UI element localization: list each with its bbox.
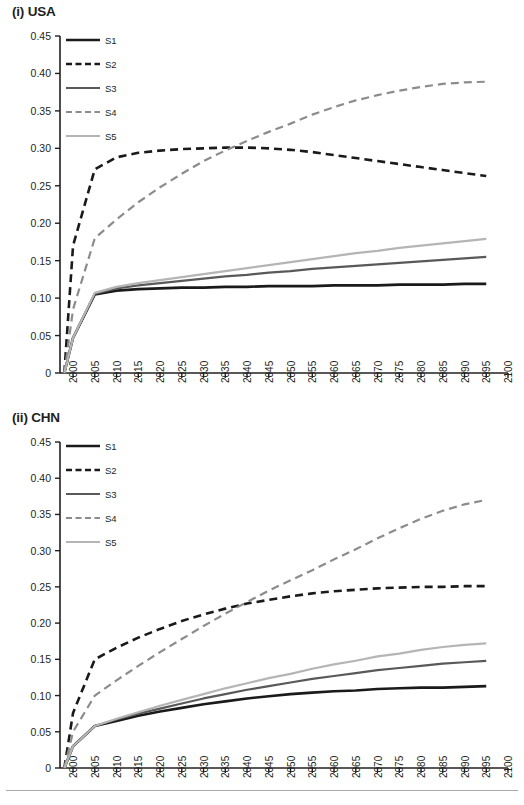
y-tick-label: 0.15 xyxy=(31,255,52,267)
y-tick-label: 0.35 xyxy=(31,508,52,520)
y-tick-label: 0.40 xyxy=(31,472,52,484)
chart-panel-chn: (ii) CHN 00.050.100.150.200.250.300.350.… xyxy=(0,408,524,805)
x-tick-label: 2065 xyxy=(351,755,362,778)
x-tick-label: 2065 xyxy=(351,360,362,383)
y-tick-label: 0.15 xyxy=(31,653,52,665)
y-tick-label: 0 xyxy=(45,367,51,379)
legend-label-s3: S3 xyxy=(105,83,117,94)
legend-label-s2: S2 xyxy=(105,465,117,476)
x-tick-label: 2070 xyxy=(373,360,384,383)
y-tick-label: 0.05 xyxy=(31,726,52,738)
x-tick-label: 2045 xyxy=(264,360,275,383)
chart-panel-usa: (i) USA 00.050.100.150.200.250.300.350.4… xyxy=(0,0,524,410)
x-tick-label: 2095 xyxy=(481,755,492,778)
legend-label-s4: S4 xyxy=(105,107,117,118)
x-tick-label: 2000 xyxy=(68,360,79,383)
x-tick-label: 2005 xyxy=(90,360,101,383)
x-tick-label: 2100 xyxy=(503,755,514,778)
y-tick-label: 0.10 xyxy=(31,292,52,304)
footer-divider xyxy=(6,790,518,791)
x-tick-label: 2025 xyxy=(177,755,188,778)
y-tick-label: 0.25 xyxy=(31,180,52,192)
legend-label-s2: S2 xyxy=(105,59,117,70)
y-tick-label: 0.35 xyxy=(31,105,52,117)
x-tick-label: 2035 xyxy=(220,755,231,778)
series-line-s3 xyxy=(64,257,486,373)
y-tick-label: 0.30 xyxy=(31,545,52,557)
y-tick-label: 0.20 xyxy=(31,617,52,629)
x-tick-label: 2080 xyxy=(416,755,427,778)
legend-label-s4: S4 xyxy=(105,513,117,524)
x-tick-label: 2060 xyxy=(329,755,340,778)
x-tick-label: 2015 xyxy=(133,755,144,778)
x-tick-label: 2030 xyxy=(199,360,210,383)
legend-label-s5: S5 xyxy=(105,131,117,142)
x-tick-label: 2030 xyxy=(199,755,210,778)
y-tick-label: 0.45 xyxy=(31,436,52,448)
chart-svg-usa: 00.050.100.150.200.250.300.350.400.45200… xyxy=(0,0,524,410)
x-tick-label: 2000 xyxy=(68,755,79,778)
x-tick-label: 2010 xyxy=(112,360,123,383)
figure-page: (i) USA 00.050.100.150.200.250.300.350.4… xyxy=(0,0,524,805)
legend-label-s1: S1 xyxy=(105,441,117,452)
y-tick-label: 0.30 xyxy=(31,142,52,154)
x-tick-label: 2020 xyxy=(155,360,166,383)
y-tick-label: 0 xyxy=(45,762,51,774)
x-tick-label: 2090 xyxy=(460,755,471,778)
x-tick-label: 2005 xyxy=(90,755,101,778)
x-tick-label: 2050 xyxy=(286,360,297,383)
x-tick-label: 2100 xyxy=(503,360,514,383)
y-tick-label: 0.40 xyxy=(31,67,52,79)
x-tick-label: 2070 xyxy=(373,755,384,778)
y-tick-label: 0.45 xyxy=(31,30,52,42)
x-tick-label: 2020 xyxy=(155,755,166,778)
y-tick-label: 0.25 xyxy=(31,581,52,593)
x-tick-label: 2080 xyxy=(416,360,427,383)
legend-label-s3: S3 xyxy=(105,489,117,500)
x-tick-label: 2075 xyxy=(394,360,405,383)
x-tick-label: 2085 xyxy=(438,755,449,778)
x-tick-label: 2055 xyxy=(307,755,318,778)
y-tick-label: 0.10 xyxy=(31,690,52,702)
series-line-s5 xyxy=(64,643,486,768)
y-tick-label: 0.20 xyxy=(31,217,52,229)
series-line-s1 xyxy=(64,686,486,768)
x-tick-label: 2035 xyxy=(220,360,231,383)
series-line-s4 xyxy=(64,500,486,768)
x-tick-label: 2050 xyxy=(286,755,297,778)
x-tick-label: 2040 xyxy=(242,755,253,778)
x-tick-label: 2025 xyxy=(177,360,188,383)
chart-svg-chn: 00.050.100.150.200.250.300.350.400.45200… xyxy=(0,408,524,805)
x-tick-label: 2095 xyxy=(481,360,492,383)
x-tick-label: 2040 xyxy=(242,360,253,383)
x-tick-label: 2045 xyxy=(264,755,275,778)
y-tick-label: 0.05 xyxy=(31,330,52,342)
legend-label-s5: S5 xyxy=(105,537,117,548)
x-tick-label: 2060 xyxy=(329,360,340,383)
legend-label-s1: S1 xyxy=(105,35,117,46)
series-line-s5 xyxy=(64,239,486,373)
series-line-s4 xyxy=(64,82,486,373)
x-tick-label: 2015 xyxy=(133,360,144,383)
x-tick-label: 2055 xyxy=(307,360,318,383)
x-tick-label: 2085 xyxy=(438,360,449,383)
x-tick-label: 2090 xyxy=(460,360,471,383)
x-tick-label: 2075 xyxy=(394,755,405,778)
x-tick-label: 2010 xyxy=(112,755,123,778)
series-line-s1 xyxy=(64,284,486,373)
